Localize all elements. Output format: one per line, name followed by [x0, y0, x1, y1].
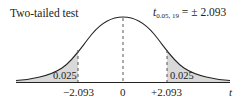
- left-tail-area: 0.025: [53, 71, 77, 82]
- tick-label-pos: +2.093: [151, 87, 182, 98]
- tick-label-neg: −2.093: [63, 87, 94, 98]
- chart-title: Two-tailed test: [10, 8, 79, 20]
- right-tail-area: 0.025: [170, 71, 194, 82]
- formula-rhs: = ± 2.093: [182, 6, 226, 18]
- formula-subscript: 0.05, 19: [156, 12, 179, 20]
- tick-label-zero: 0: [120, 87, 126, 98]
- critical-value-formula: t0.05, 19 = ± 2.093: [153, 7, 226, 20]
- axis-variable-label: t: [229, 87, 232, 98]
